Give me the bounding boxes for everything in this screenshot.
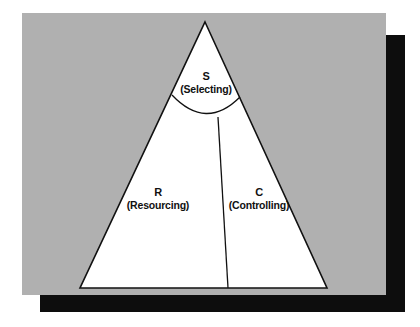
region-label-controlling: C (Controlling): [216, 186, 302, 211]
region-code-resourcing: R: [117, 186, 199, 199]
region-name-selecting: (Selecting): [165, 83, 247, 95]
region-code-selecting: S: [165, 70, 247, 83]
region-name-controlling: (Controlling): [216, 199, 302, 211]
triangle-diagram: [0, 0, 420, 327]
region-name-resourcing: (Resourcing): [117, 199, 199, 211]
triangle-shape: [80, 22, 327, 288]
region-code-controlling: C: [216, 186, 302, 199]
region-label-resourcing: R (Resourcing): [117, 186, 199, 211]
figure-root: S (Selecting) R (Resourcing) C (Controll…: [0, 0, 420, 327]
region-label-selecting: S (Selecting): [165, 70, 247, 95]
